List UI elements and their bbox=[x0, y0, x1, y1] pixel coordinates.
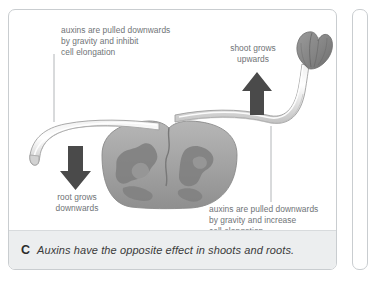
adjacent-panel-sliver bbox=[352, 9, 368, 270]
label-root-grows-downwards: root grows downwards bbox=[35, 192, 119, 214]
figure-panel: auxins are pulled downwards by gravity a… bbox=[8, 9, 337, 270]
arrow-up-icon bbox=[242, 72, 272, 115]
label-auxins-inhibit: auxins are pulled downwards by gravity a… bbox=[61, 25, 170, 59]
label-shoot-grows-upwards: shoot grows upwards bbox=[205, 43, 301, 65]
figure-caption: C Auxins have the opposite effect in sho… bbox=[9, 230, 336, 269]
shoot-tip bbox=[297, 32, 333, 69]
caption-text: Auxins have the opposite effect in shoot… bbox=[37, 244, 294, 256]
shoot bbox=[175, 64, 309, 123]
caption-letter: C bbox=[21, 243, 30, 257]
arrow-down-icon bbox=[60, 146, 91, 190]
germinating-seed bbox=[102, 121, 237, 209]
